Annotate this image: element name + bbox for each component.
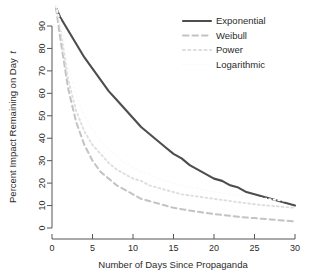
x-tick-label: 10 <box>128 243 138 253</box>
chart-legend: ExponentialWeibullPowerLogarithmic <box>183 15 266 70</box>
legend-label-power: Power <box>216 44 243 55</box>
chart-curves <box>56 6 295 222</box>
y-tick-label: 40 <box>37 133 47 143</box>
legend-label-exponential: Exponential <box>216 15 266 26</box>
y-tick-label: 0 <box>37 225 47 230</box>
x-tick-label: 20 <box>209 243 219 253</box>
y-tick-label: 50 <box>37 111 47 121</box>
y-axis-ticks: 0102030405060708090 <box>37 21 52 231</box>
y-axis-title: Percent Impact Remaining on Day t <box>7 51 18 203</box>
chart-figure: 0102030405060708090 051015202530 Number … <box>0 0 309 277</box>
x-tick-label: 0 <box>49 243 54 253</box>
y-tick-label: 80 <box>37 43 47 53</box>
series-line-power <box>56 6 295 208</box>
x-tick-label: 5 <box>90 243 95 253</box>
x-tick-label: 25 <box>249 243 259 253</box>
y-tick-label: 10 <box>37 201 47 211</box>
x-tick-label: 15 <box>168 243 178 253</box>
y-tick-label: 30 <box>37 156 47 166</box>
legend-label-logarithmic: Logarithmic <box>216 59 265 70</box>
y-tick-label: 60 <box>37 88 47 98</box>
y-tick-label: 70 <box>37 66 47 76</box>
series-line-weibull <box>56 8 295 221</box>
series-line-exponential <box>56 8 295 206</box>
series-line-logarithmic <box>56 6 295 202</box>
x-axis-ticks: 051015202530 <box>49 234 300 253</box>
x-axis-title: Number of Days Since Propaganda <box>98 259 248 270</box>
x-tick-label: 30 <box>290 243 300 253</box>
y-tick-label: 90 <box>37 21 47 31</box>
y-tick-label: 20 <box>37 178 47 188</box>
chart-svg: 0102030405060708090 051015202530 Number … <box>0 0 309 277</box>
legend-label-weibull: Weibull <box>216 30 247 41</box>
